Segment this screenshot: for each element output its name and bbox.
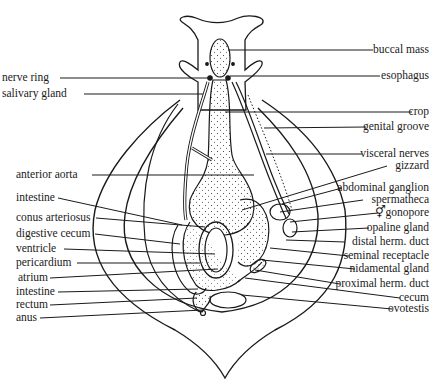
- leader-lines: [0, 0, 445, 385]
- anatomy-diagram: nerve ring salivary gland anterior aorta…: [0, 0, 445, 385]
